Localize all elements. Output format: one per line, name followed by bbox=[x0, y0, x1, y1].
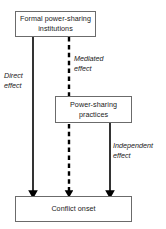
node-power-sharing-practices: Power-sharing practices bbox=[55, 96, 132, 123]
node-label-practices: Power-sharing practices bbox=[56, 100, 131, 119]
edge-label-mediated-effect: Mediated effect bbox=[74, 54, 104, 73]
path-diagram: Formal power-sharing institutions Power-… bbox=[0, 0, 166, 229]
node-formal-power-sharing-institutions: Formal power-sharing institutions bbox=[15, 11, 96, 37]
edge-label-direct-effect: Direct effect bbox=[4, 71, 23, 90]
edge-label-mediated-effect-line1: Mediated bbox=[74, 54, 104, 64]
edge-label-independent-effect-line1: Independent bbox=[113, 141, 153, 151]
edge-label-direct-effect-line1: Direct bbox=[4, 71, 23, 81]
edge-label-independent-effect: Independent effect bbox=[113, 141, 153, 160]
node-conflict-onset: Conflict onset bbox=[15, 196, 132, 222]
node-label-formal-institutions: Formal power-sharing institutions bbox=[16, 14, 95, 33]
edge-label-direct-effect-line2: effect bbox=[4, 81, 23, 91]
edge-label-mediated-effect-line2: effect bbox=[74, 64, 104, 74]
node-label-conflict-onset: Conflict onset bbox=[51, 204, 95, 214]
edge-label-independent-effect-line2: effect bbox=[113, 151, 153, 161]
